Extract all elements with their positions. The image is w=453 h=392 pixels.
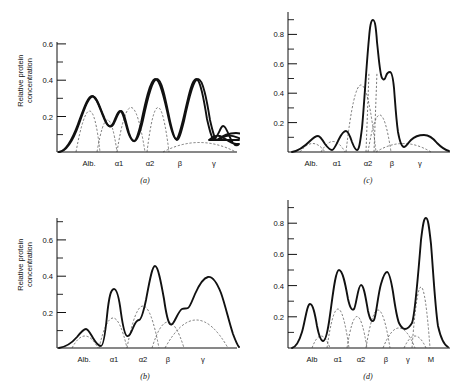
panel-d-y-ticks (288, 208, 297, 333)
panel-a-envelope-main (59, 79, 240, 152)
panel-b-xlabel-1: α1 (110, 355, 119, 364)
panel-d-xlabel-3: β (384, 355, 389, 364)
y-title-line2-b: concentration (26, 227, 35, 303)
panel-b-xlabel-2: α2 (139, 355, 148, 364)
panel-a-y-axis-title: Relative protein concentration (17, 43, 34, 119)
panel-a-xlabel-4: γ (212, 159, 216, 168)
electrophoresis-figure: 0.2 0.4 0.6 Alb. α1 α2 β γ (0, 0, 453, 392)
panel-c-ytick-2: 0.6 (273, 60, 284, 69)
panel-c-x-labels: Alb. α1 α2 β γ (304, 159, 422, 168)
panel-b-plot: 0.2 0.4 0.6 Alb. α1 α2 β γ (0, 196, 240, 376)
panel-b: 0.2 0.4 0.6 Alb. α1 α2 β γ Relative prot… (0, 196, 240, 376)
panel-a-xlabel-2: α2 (146, 159, 155, 168)
panel-c-xlabel-4: γ (418, 159, 422, 168)
panel-a-ytick-1: 0.4 (42, 76, 53, 85)
panel-b-xlabel-0: Alb. (77, 355, 90, 364)
panel-a-caption: (a) (125, 176, 165, 185)
panel-b-y-axis-title: Relative protein concentration (17, 227, 34, 303)
panel-c-xlabel-1: α1 (333, 159, 342, 168)
panel-a-xlabel-1: α1 (115, 159, 124, 168)
panel-d-ytick-2: 0.6 (273, 250, 284, 259)
panel-c-xlabel-2: α2 (364, 159, 373, 168)
panel-d-xlabel-0: Alb (307, 355, 318, 364)
panel-b-xlabel-4: γ (201, 355, 205, 364)
panel-b-ytick-1: 0.4 (42, 272, 53, 281)
panel-c: 0.2 0.4 0.6 0.8 Alb. α1 α2 β γ (c) (228, 0, 453, 180)
panel-b-caption: (b) (125, 372, 165, 381)
panel-c-xlabel-3: β (390, 159, 395, 168)
panel-a-y-ticks (57, 44, 66, 135)
panel-a-ytick-0: 0.2 (42, 113, 53, 122)
panel-c-y-ticks (288, 20, 297, 138)
panel-a-xlabel-3: β (178, 159, 183, 168)
panel-c-ytick-1: 0.4 (273, 89, 284, 98)
panel-d-ytick-1: 0.4 (273, 282, 284, 291)
panel-d-ytick-3: 0.8 (273, 219, 284, 228)
panel-c-xlabel-0: Alb. (304, 159, 317, 168)
panel-a-xlabel-0: Alb. (82, 159, 95, 168)
panel-d-envelope (292, 218, 448, 348)
panel-d-xlabel-2: α2 (357, 355, 366, 364)
panel-d-plot: 0.2 0.4 0.6 0.8 Alb α1 α2 β γ M (228, 196, 453, 376)
panel-d-xlabel-4: γ (406, 355, 410, 364)
panel-b-ytick-0: 0.2 (42, 309, 53, 318)
panel-a-envelope (59, 79, 239, 152)
panel-d-xlabel-1: α1 (334, 355, 343, 364)
panel-c-plot: 0.2 0.4 0.6 0.8 Alb. α1 α2 β γ (228, 0, 453, 180)
panel-d-caption: (d) (348, 372, 388, 381)
panel-b-x-labels: Alb. α1 α2 β γ (77, 355, 205, 364)
y-title-line2: concentration (26, 43, 35, 119)
panel-d-x-labels: Alb α1 α2 β γ M (307, 355, 435, 364)
panel-a-x-labels: Alb. α1 α2 β γ (82, 159, 216, 168)
panel-c-envelope (292, 20, 449, 152)
panel-b-xlabel-3: β (166, 355, 171, 364)
panel-a: 0.2 0.4 0.6 Alb. α1 α2 β γ (0, 0, 240, 180)
panel-b-envelope (59, 266, 239, 348)
panel-c-ytick-0: 0.2 (273, 119, 284, 128)
panel-a-ytick-2: 0.6 (42, 40, 53, 49)
panel-c-caption: (c) (348, 176, 388, 185)
panel-d: 0.2 0.4 0.6 0.8 Alb α1 α2 β γ M (228, 196, 453, 376)
panel-d-ytick-0: 0.2 (273, 313, 284, 322)
panel-c-ytick-3: 0.8 (273, 30, 284, 39)
panel-a-plot: 0.2 0.4 0.6 Alb. α1 α2 β γ (0, 0, 240, 180)
panel-b-ytick-2: 0.6 (42, 236, 53, 245)
panel-d-xlabel-5: M (428, 355, 434, 364)
panel-b-y-ticks (57, 222, 66, 331)
